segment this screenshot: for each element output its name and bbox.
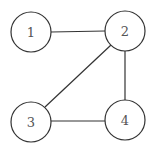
node-1-label: 1 xyxy=(27,25,35,40)
node-4-label: 4 xyxy=(121,113,129,128)
graph-diagram: 1 2 3 4 xyxy=(0,0,156,151)
node-2: 2 xyxy=(105,11,145,51)
edge-2-3 xyxy=(45,45,111,107)
node-4: 4 xyxy=(105,100,145,140)
node-3-label: 3 xyxy=(27,115,35,130)
node-3: 3 xyxy=(11,102,51,142)
node-1: 1 xyxy=(11,12,51,52)
edge-1-2 xyxy=(51,31,105,32)
node-2-label: 2 xyxy=(121,24,129,39)
